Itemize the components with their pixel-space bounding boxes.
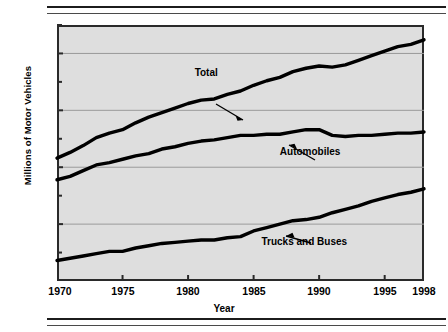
y-axis-title: Millions of Motor Vehicles [22, 26, 33, 226]
x-tick-label-1985: 1985 [229, 285, 279, 297]
series-label-automobiles: Automobiles [280, 146, 341, 157]
x-tick-label-1980: 1980 [163, 285, 213, 297]
arrow-head-total [236, 116, 244, 121]
series-line-trucks-and-buses [57, 189, 424, 261]
gridlines [57, 53, 424, 224]
series-line-total [57, 40, 424, 158]
x-axis-title: Year [0, 303, 448, 314]
series-label-trucks-and-buses: Trucks and Buses [261, 236, 347, 247]
x-tick-label-1998: 1998 [399, 285, 448, 297]
bottom-rule-divider [47, 318, 446, 326]
top-rule-divider [47, 6, 446, 14]
x-tick-label-1975: 1975 [98, 285, 148, 297]
series-label-total: Total [195, 67, 218, 78]
series-line-automobiles [57, 130, 424, 180]
plot-canvas [57, 25, 424, 281]
x-tick-label-1970: 1970 [35, 285, 85, 297]
x-axis-ticks [123, 275, 385, 281]
x-tick-label-1990: 1990 [294, 285, 344, 297]
y-axis-minor-ticks [57, 25, 62, 253]
chart-figure: Millions of Motor Vehicles 200 150 100 5… [0, 0, 448, 332]
annotation-arrows [216, 104, 315, 243]
